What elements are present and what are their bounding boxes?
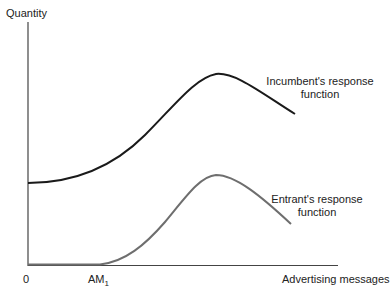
incumbent-label-line2: function — [259, 88, 381, 101]
incumbent-response-curve — [28, 74, 295, 183]
entrant-label: Entrant's response function — [263, 193, 371, 219]
entrant-label-line2: function — [263, 206, 371, 219]
entrant-label-line1: Entrant's response — [263, 193, 371, 206]
entrant-response-curve — [28, 175, 291, 265]
incumbent-label: Incumbent's response function — [259, 75, 381, 101]
incumbent-label-line1: Incumbent's response — [259, 75, 381, 88]
am1-tick-label: AM1 — [88, 273, 109, 290]
am-text: AM — [88, 273, 105, 285]
x-axis-label: Advertising messages — [282, 273, 390, 286]
am-subscript: 1 — [105, 279, 109, 288]
y-axis-label: Quantity — [6, 7, 47, 20]
origin-label: 0 — [23, 273, 29, 286]
